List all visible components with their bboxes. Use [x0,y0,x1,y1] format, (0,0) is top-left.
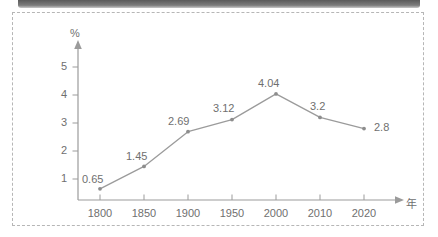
page-root: % 年 5 4 3 2 1 1800 1850 1900 1950 2000 2… [0,0,438,237]
window-header-bar [18,0,420,8]
chart-dashed-frame [12,12,424,226]
